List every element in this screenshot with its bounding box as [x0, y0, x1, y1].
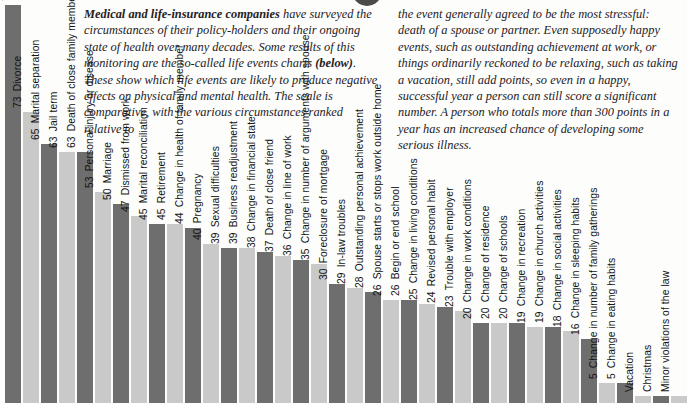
chart-bar[interactable] [221, 248, 237, 403]
chart-bar-label: Vacation [624, 352, 635, 392]
chart-bar-value: 26 [390, 284, 401, 296]
chart-bar-value: 45 [138, 208, 149, 220]
chart-bar-label: Change of schools [498, 216, 509, 303]
chart-bar-label: Change in eating habits [606, 258, 617, 369]
chart-bar[interactable] [131, 216, 147, 403]
chart-bar[interactable] [545, 327, 561, 403]
chart-bar[interactable] [599, 383, 615, 403]
chart-bar-slot[interactable]: 20Change of schools [509, 0, 525, 403]
chart-bar[interactable] [59, 152, 75, 403]
chart-bar[interactable] [257, 252, 273, 403]
chart-bar-label: Spouse starts or stops work outside home [372, 83, 383, 279]
chart-bar[interactable] [419, 304, 435, 403]
chart-bar[interactable] [365, 292, 381, 403]
chart-bar[interactable] [185, 228, 201, 403]
chart-bar-value: 20 [498, 308, 509, 320]
chart-bar-label: Marriage [102, 142, 113, 183]
chart-bar-slot[interactable]: 53Personal injury or disease [95, 0, 111, 403]
chart-bar-slot[interactable]: 20Change in work conditions [473, 0, 489, 403]
chart-bar-label: Sexual difficulties [210, 146, 221, 227]
chart-bar-label: Change in work conditions [462, 179, 473, 302]
chart-bar-slot[interactable]: 5Change in eating habits [617, 0, 633, 403]
chart-bar[interactable] [293, 260, 309, 403]
chart-bar[interactable] [41, 144, 57, 403]
chart-bar-label: Pregnancy [192, 173, 203, 223]
chart-bar[interactable] [239, 248, 255, 403]
chart-bar-label: Foreclosure of mortgage [318, 148, 329, 262]
chart-bar-slot[interactable]: 65Marital separation [41, 0, 57, 403]
chart-bar-label: In-law troubles [336, 198, 347, 266]
chart-bar[interactable] [329, 284, 345, 403]
chart-bar[interactable] [635, 396, 651, 403]
chart-bar-value: 65 [30, 129, 41, 141]
chart-bar-label: Retirement [156, 152, 167, 203]
chart-bar-value: 19 [534, 312, 545, 324]
chart-bar-label: Revised personal habit [426, 180, 437, 287]
chart-bar-label: Minor violations of the law [660, 271, 671, 392]
chart-bar-label: Dismissed from work [120, 98, 131, 195]
chart-bar-value: 73 [12, 97, 23, 109]
chart-bar[interactable] [275, 256, 291, 403]
chart-bar-value: 18 [552, 316, 563, 328]
chart-bar[interactable] [149, 224, 165, 403]
chart-bar[interactable] [473, 323, 489, 403]
chart-bar-label: Change in recreation [516, 209, 527, 307]
chart-bar-slot[interactable]: Minor violations of the law [671, 0, 687, 403]
chart-bar[interactable] [527, 327, 543, 403]
chart-bar-value: 35 [300, 248, 311, 260]
chart-bar-label: Jail term [48, 92, 59, 132]
chart-bar-label: Change of residence [480, 206, 491, 303]
chart-bar[interactable] [311, 264, 327, 403]
chart-bar[interactable] [491, 323, 507, 403]
chart-bar[interactable] [401, 300, 417, 403]
chart-bars-container: 100Death of spouse73Divorce65Marital sep… [5, 0, 687, 403]
chart-bar-label: Change in line of work [282, 135, 293, 239]
chart-bar[interactable] [167, 224, 183, 403]
chart-bar[interactable] [347, 288, 363, 403]
chart-bar[interactable] [653, 396, 669, 403]
chart-bar-value: 24 [426, 292, 437, 304]
chart-bar-value: 20 [480, 308, 491, 320]
chart-bar[interactable] [95, 192, 111, 403]
chart-bar-label: Change in number of arguments with spous… [300, 34, 311, 243]
chart-bar-label: Personal injury or disease [84, 50, 95, 171]
chart-bar-label: Change in financial state [246, 116, 257, 231]
chart-bar-slot[interactable]: 20Change of residence [491, 0, 507, 403]
chart-bar-label: Death of close friend [264, 139, 275, 236]
chart-bar[interactable] [563, 331, 579, 403]
chart-bar-label: Change in social activities [552, 190, 563, 311]
chart-bar-value: 39 [228, 232, 239, 244]
chart-bar-value: 38 [246, 236, 257, 248]
chart-bar[interactable] [23, 112, 39, 403]
chart-bar[interactable] [509, 323, 525, 403]
chart-bar-value: 29 [336, 272, 347, 284]
chart-bar-label: Marital separation [30, 40, 41, 124]
chart-bar-value: 25 [408, 288, 419, 300]
chart-bar-label: Business readjustment [228, 121, 239, 227]
chart-bar-value: 30 [318, 268, 329, 280]
chart-bar-value: 63 [66, 137, 77, 149]
chart-bar[interactable] [455, 311, 471, 403]
chart-bar-value: 28 [354, 276, 365, 288]
chart-bar-label: Change in number of family gatherings [588, 188, 599, 369]
chart-bar-value: 100 [0, 0, 5, 1]
chart-bar[interactable] [77, 152, 93, 403]
chart-bar-value: 26 [372, 284, 383, 296]
chart-bar-value: 37 [264, 240, 275, 252]
chart-bar-label: Begin or end school [390, 186, 401, 279]
chart-bar-label: Change in living conditions [408, 158, 419, 283]
chart-bar-label: Death of close family member [66, 0, 77, 132]
chart-bar-label: Trouble with employer [444, 188, 455, 291]
chart-bar[interactable] [203, 244, 219, 403]
chart-bar-label: Change in health of family member [174, 44, 185, 207]
chart-bar-value: 50 [102, 188, 113, 200]
chart-bar-value: 53 [84, 176, 95, 188]
chart-bar[interactable] [437, 307, 453, 403]
chart-bar[interactable] [383, 300, 399, 403]
chart-bar-slot[interactable]: Vacation [635, 0, 651, 403]
chart-bar[interactable] [113, 204, 129, 403]
chart-bar-value: 23 [444, 296, 455, 308]
chart-bar-label: Outstanding personal achievement [354, 109, 365, 271]
chart-bar[interactable] [671, 396, 687, 403]
chart-bar-value: 47 [120, 200, 131, 212]
